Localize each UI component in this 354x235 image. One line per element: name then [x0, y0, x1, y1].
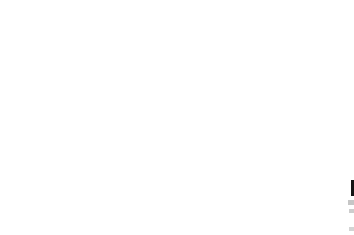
- surface-plot-canvas: [0, 0, 354, 235]
- page-crop-artifact-mark: [348, 200, 354, 205]
- page-crop-artifact-mark: [349, 227, 354, 231]
- page-crop-artifact-mark: [349, 209, 354, 213]
- surface-plot-figure: [0, 0, 354, 235]
